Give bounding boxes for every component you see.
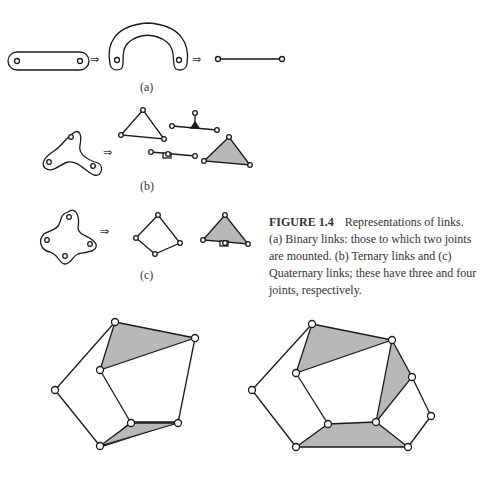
- figure-caption: FIGURE 1.4 Representations of links. (a)…: [269, 214, 481, 299]
- binary-link-curved: [109, 23, 188, 70]
- panel-label-a: (a): [140, 80, 153, 95]
- figure-number: FIGURE 1.4: [269, 215, 334, 229]
- panel-label-b: (b): [140, 179, 154, 194]
- figure-caption-body: (a) Binary links: those to which two joi…: [269, 232, 476, 297]
- arrow-c: ⇒: [100, 225, 109, 238]
- mechanism-right: [249, 321, 435, 451]
- mechanism-left: [52, 319, 199, 450]
- quaternary-quad: [136, 215, 180, 254]
- panel-label-c: (c): [140, 268, 153, 283]
- quaternary-triangle-shaded: [203, 215, 248, 244]
- figure-title: Representations of links.: [345, 215, 464, 229]
- arrow-a2: ⇒: [192, 53, 201, 66]
- arrow-b: ⇒: [103, 146, 112, 159]
- ternary-triangle-shaded: [204, 137, 250, 165]
- ternary-triangle-open: [121, 110, 164, 139]
- arrow-a1: ⇒: [90, 53, 99, 66]
